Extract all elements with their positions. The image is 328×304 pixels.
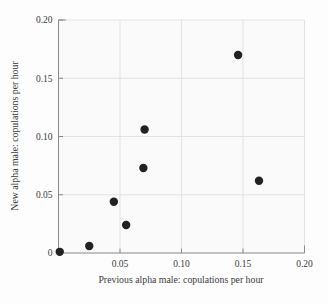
scatter-point <box>255 177 263 185</box>
x-axis-title: Previous alpha male: copulations per hou… <box>98 274 264 285</box>
x-tick-label: 0.20 <box>296 259 313 269</box>
scatter-point <box>140 125 148 133</box>
scatter-point <box>110 198 118 206</box>
y-tick-label: 0.10 <box>36 132 53 142</box>
scatter-point <box>56 248 64 256</box>
y-tick-label: 0.20 <box>36 15 53 25</box>
x-tick-label: 0.15 <box>235 259 252 269</box>
scatter-point <box>139 164 147 172</box>
y-tick-label: 0 <box>48 248 53 258</box>
y-tick-label: 0.05 <box>36 190 53 200</box>
scatter-plot-figure: 00.050.100.150.20 0.050.100.150.20 Previ… <box>0 0 328 304</box>
x-tick-label: 0.10 <box>173 259 190 269</box>
chart-canvas: 00.050.100.150.20 0.050.100.150.20 Previ… <box>0 0 328 304</box>
scatter-point <box>122 221 130 229</box>
x-tick-label: 0.05 <box>112 259 129 269</box>
y-axis-title: New alpha male: copulations per hour <box>9 61 20 211</box>
scatter-point <box>85 242 93 250</box>
scatter-point <box>234 51 242 59</box>
y-tick-label: 0.15 <box>36 74 53 84</box>
